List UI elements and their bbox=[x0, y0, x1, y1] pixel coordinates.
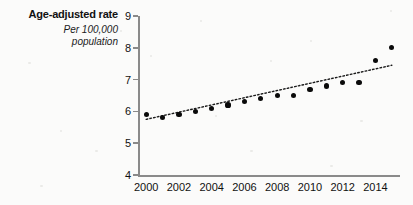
texture-fleck bbox=[360, 120, 363, 122]
data-point bbox=[275, 93, 280, 98]
y-axis-tick-label: 7 bbox=[103, 75, 131, 85]
y-tick-mark bbox=[133, 142, 138, 144]
texture-fleck bbox=[330, 165, 333, 167]
data-point bbox=[242, 99, 247, 104]
age-adjusted-rate-chart: Age-adjusted rate Per 100,000 population… bbox=[0, 0, 413, 205]
texture-fleck bbox=[270, 60, 272, 62]
y-tick-mark bbox=[133, 47, 138, 49]
y-tick-label-wrap: 9 bbox=[100, 11, 131, 21]
y-tick-mark bbox=[133, 174, 138, 176]
y-axis-tick-label: 6 bbox=[103, 106, 131, 116]
data-point bbox=[324, 83, 329, 88]
data-point bbox=[144, 112, 149, 117]
y-axis-tick-label: 9 bbox=[103, 11, 131, 21]
plot-area: 987654 20002002200420062008201020122014 bbox=[0, 0, 413, 205]
data-point bbox=[258, 96, 263, 101]
data-point bbox=[340, 80, 345, 85]
y-tick-mark bbox=[133, 79, 138, 81]
data-point bbox=[160, 115, 165, 120]
data-point bbox=[193, 109, 198, 114]
data-point bbox=[356, 80, 361, 85]
texture-fleck bbox=[250, 150, 253, 152]
texture-fleck bbox=[60, 130, 62, 132]
data-point bbox=[225, 102, 230, 107]
y-axis-tick-label: 5 bbox=[103, 138, 131, 148]
texture-fleck bbox=[150, 55, 152, 57]
y-axis-tick-label: 4 bbox=[103, 170, 131, 180]
texture-fleck bbox=[28, 62, 31, 64]
data-point bbox=[209, 106, 214, 111]
x-axis-line bbox=[138, 175, 400, 177]
texture-fleck bbox=[200, 20, 202, 22]
data-point bbox=[176, 112, 181, 117]
y-tick-label-wrap: 6 bbox=[100, 106, 131, 116]
texture-fleck bbox=[95, 150, 98, 152]
y-tick-label-wrap: 7 bbox=[100, 75, 131, 85]
texture-fleck bbox=[120, 30, 122, 32]
trend-line-segment bbox=[146, 65, 392, 119]
data-point bbox=[307, 87, 312, 92]
x-axis-tick-label: 2014 bbox=[353, 181, 397, 193]
texture-fleck bbox=[310, 40, 312, 42]
texture-fleck bbox=[40, 185, 43, 187]
y-tick-label-wrap: 8 bbox=[100, 43, 131, 53]
y-tick-label-wrap: 5 bbox=[100, 138, 131, 148]
y-axis-line bbox=[138, 16, 140, 176]
texture-fleck bbox=[215, 115, 217, 117]
y-tick-label-wrap: 4 bbox=[100, 170, 131, 180]
data-point bbox=[373, 58, 378, 63]
data-point bbox=[291, 93, 296, 98]
data-point bbox=[389, 45, 394, 50]
texture-fleck bbox=[390, 10, 392, 12]
y-tick-mark bbox=[133, 111, 138, 113]
y-tick-mark bbox=[133, 15, 138, 17]
texture-fleck bbox=[180, 185, 182, 187]
y-axis-tick-label: 8 bbox=[103, 43, 131, 53]
